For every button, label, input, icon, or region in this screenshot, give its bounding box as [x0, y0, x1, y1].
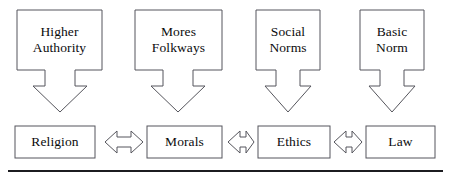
source-node-mores-folkways-shape: [135, 10, 222, 112]
source-node-higher-authority-shape: [17, 10, 102, 112]
diagram-vector-layer: [0, 0, 450, 180]
outcome-box-law-shape: [366, 126, 435, 158]
link-arrow-ethics-law-shape: [334, 131, 362, 153]
outcome-box-religion-shape: [15, 126, 95, 158]
diagram-canvas: Higher Authority Mores Folkways Social N…: [0, 0, 450, 180]
source-node-social-norms-shape: [256, 10, 320, 112]
outcome-box-morals-shape: [147, 126, 222, 158]
outcome-box-ethics-shape: [258, 126, 330, 158]
link-arrow-religion-morals-shape: [105, 131, 143, 153]
source-node-basic-norm-shape: [360, 10, 424, 112]
link-arrow-morals-ethics-shape: [228, 131, 254, 153]
